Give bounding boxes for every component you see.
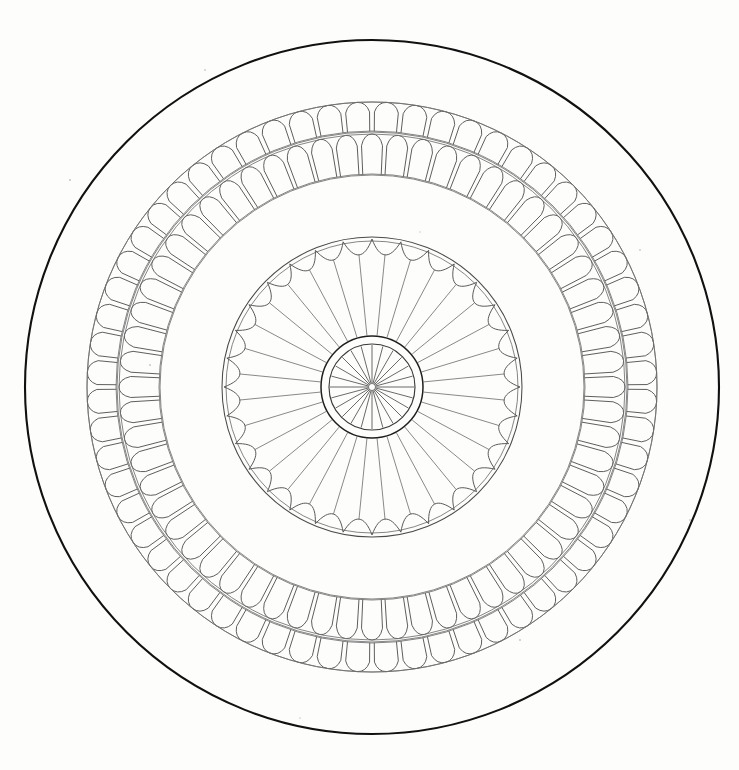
paper-speck bbox=[689, 519, 691, 521]
paper-speck bbox=[299, 717, 301, 719]
paper-speck bbox=[419, 231, 421, 233]
drawing-canvas bbox=[0, 0, 739, 770]
paper-speck bbox=[204, 69, 206, 71]
paper-speck bbox=[149, 364, 151, 366]
paper-speck bbox=[519, 639, 521, 641]
rosette-illustration bbox=[0, 0, 739, 770]
paper-speck bbox=[69, 179, 71, 181]
paper-speck bbox=[639, 249, 641, 251]
